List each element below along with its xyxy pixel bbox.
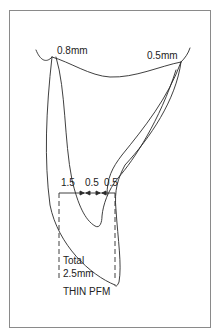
- lingual-inner-surface: [107, 62, 181, 195]
- total-value-label: 2.5mm: [63, 269, 94, 279]
- dimension-label-1: 1.5: [61, 178, 75, 188]
- arrow-left-2: [86, 191, 90, 195]
- labial-outer-surface: [46, 57, 115, 285]
- right-margin-label: 0.5mm: [147, 51, 178, 61]
- right-gingiva-line: [181, 48, 190, 62]
- caption-label: THIN PFM: [63, 287, 110, 297]
- arrow-right-2: [96, 191, 100, 195]
- left-margin-label: 0.8mm: [57, 46, 88, 56]
- tooth-cross-section-diagram: [0, 0, 221, 335]
- dimension-label-2: 0.5: [85, 178, 99, 188]
- total-label: Total: [63, 256, 84, 266]
- arrow-right-1: [80, 191, 84, 195]
- left-gingiva-line: [36, 50, 52, 61]
- arrow-left-3: [102, 191, 106, 195]
- labial-inner-surface: [56, 57, 176, 227]
- lingual-outer-surface: [115, 62, 181, 286]
- dimension-label-3: 0.5: [104, 178, 118, 188]
